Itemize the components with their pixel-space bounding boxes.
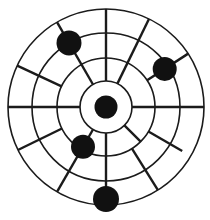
lower-left-dot [71, 135, 95, 159]
radial-grid-svg [0, 0, 210, 220]
upper-right-dot [153, 57, 177, 81]
bottom-dot [93, 186, 119, 212]
center-dot [95, 96, 118, 119]
radial-target-figure [0, 0, 210, 220]
upper-left-dot [57, 30, 82, 55]
